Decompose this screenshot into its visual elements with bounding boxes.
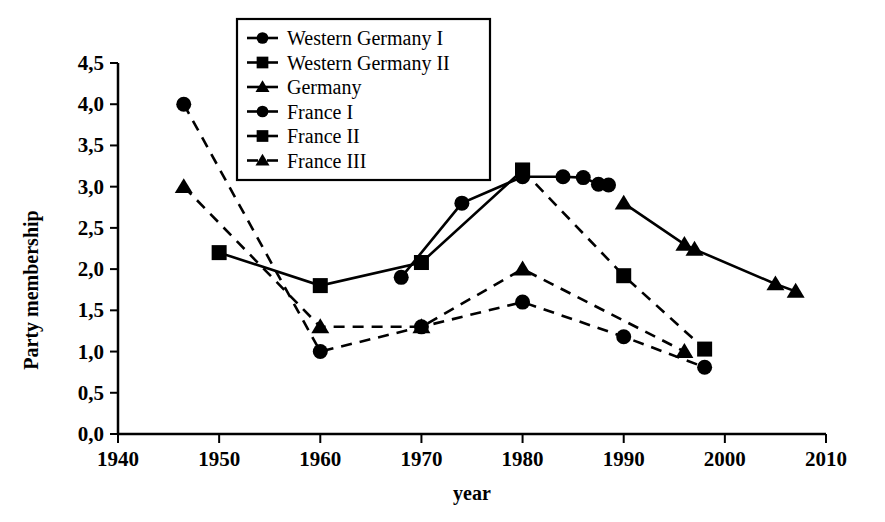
party-membership-line-chart: 0,00,51,01,52,02,53,03,54,04,5 194019501… [0,0,885,522]
x-tick-label: 2010 [805,447,847,471]
y-tick-label: 1,0 [78,340,104,364]
legend-item-label: Western Germany I [287,27,443,50]
x-tick-label: 1950 [198,447,240,471]
x-tick-label: 1960 [299,447,341,471]
series-path [624,203,796,291]
x-tick-label: 2000 [704,447,746,471]
series-path [184,187,685,352]
series-germany [615,195,805,298]
data-point-square [515,163,530,178]
data-point-triangle [175,178,193,193]
y-tick-label: 1,5 [78,298,104,322]
data-point-square [414,255,429,270]
legend-item-label: France II [287,125,360,147]
x-axis: 19401950196019701980199020002010 [97,434,847,471]
data-point-circle [454,196,469,211]
data-point-circle [556,169,571,184]
chart-legend: Western Germany IWestern Germany IIGerma… [237,19,490,180]
legend-item-label: France III [287,150,366,172]
data-point-square [313,278,328,293]
chart-canvas: 0,00,51,01,52,02,53,03,54,04,5 194019501… [0,0,885,522]
x-tick-label: 1990 [603,447,645,471]
data-point-circle [176,97,191,112]
data-point-square [257,57,269,69]
data-point-triangle [311,318,329,333]
x-tick-label: 1940 [97,447,139,471]
y-tick-label: 0,0 [78,422,104,446]
y-tick-label: 0,5 [78,381,104,405]
data-point-square [697,342,712,357]
data-point-triangle [675,343,693,358]
x-tick-label: 1980 [502,447,544,471]
y-tick-label: 3,5 [78,133,104,157]
legend-item-label: France I [287,101,353,123]
series-path [523,170,705,349]
series-western-germany-ii [212,163,530,293]
legend-item-label: Germany [287,76,361,99]
data-point-square [212,245,227,260]
data-point-triangle [514,261,532,276]
data-point-circle [313,344,328,359]
data-point-circle [576,170,591,185]
y-tick-label: 4,5 [78,51,104,75]
data-point-circle [601,178,616,193]
y-tick-label: 3,0 [78,175,104,199]
x-tick-label: 1970 [400,447,442,471]
series-france-ii [515,163,712,357]
data-point-triangle [766,275,784,290]
data-point-circle [257,32,269,44]
data-point-triangle [615,195,633,210]
data-point-circle [515,295,530,310]
y-tick-label: 2,0 [78,257,104,281]
x-axis-title: year [453,482,491,505]
data-point-circle [616,329,631,344]
data-point-circle [257,106,269,118]
legend-item-label: Western Germany II [287,52,450,75]
data-point-circle [394,270,409,285]
y-tick-label: 2,5 [78,216,104,240]
data-point-circle [697,360,712,375]
y-axis: 0,00,51,01,52,02,53,03,54,04,5 [78,51,118,446]
data-point-square [616,268,631,283]
y-tick-label: 4,0 [78,92,104,116]
data-point-square [257,130,269,142]
y-axis-title: Party membership [20,210,43,369]
